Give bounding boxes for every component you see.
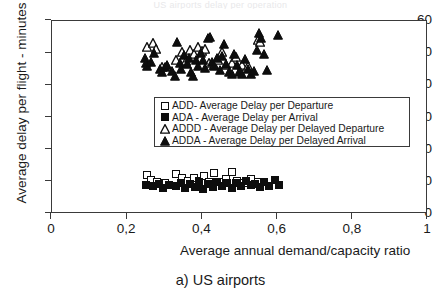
x-tick-mark bbox=[201, 213, 202, 219]
x-tick-mark bbox=[351, 213, 352, 219]
data-point-square-open bbox=[228, 168, 236, 176]
data-point-triangle-filled bbox=[229, 49, 239, 59]
data-point-triangle-filled bbox=[273, 30, 283, 40]
legend-item: ADDA - Average Delay per Delayed Arrival bbox=[160, 135, 409, 147]
x-tick-mark bbox=[50, 213, 51, 219]
x-tick-label: 0 bbox=[26, 222, 76, 236]
x-tick-mark bbox=[126, 213, 127, 219]
x-tick-label: 0,4 bbox=[176, 222, 226, 236]
x-tick-label: 1 bbox=[402, 222, 441, 236]
legend-item: ADD- Average Delay per Departure bbox=[160, 100, 409, 112]
legend: ADD- Average Delay per DepartureADA - Av… bbox=[154, 97, 410, 147]
data-point-triangle-filled bbox=[259, 49, 269, 59]
data-point-square-filled bbox=[275, 181, 283, 189]
data-point-triangle-filled bbox=[240, 54, 250, 64]
legend-label: ADDA - Average Delay per Delayed Arrival bbox=[172, 135, 366, 146]
data-point-triangle-filled bbox=[172, 37, 182, 47]
legend-marker-square-filled-icon bbox=[160, 112, 170, 122]
clipped-title-remnant: US airports delay per operation bbox=[0, 0, 441, 9]
x-tick-label: 0,6 bbox=[252, 222, 302, 236]
x-tick-label: 0,2 bbox=[101, 222, 151, 236]
figure-caption: a) US airports bbox=[0, 272, 441, 288]
data-point-triangle-filled bbox=[262, 65, 272, 75]
x-axis-title: Average annual demand/capacity ratio bbox=[180, 243, 430, 258]
x-tick-label: 0,8 bbox=[327, 222, 377, 236]
legend-marker-square-open-icon bbox=[160, 101, 170, 111]
legend-marker-triangle-open-icon bbox=[160, 124, 170, 134]
legend-label: ADDD - Average Delay per Delayed Departu… bbox=[172, 123, 384, 134]
data-point-triangle-filled bbox=[219, 39, 229, 49]
data-point-triangle-filled bbox=[256, 33, 266, 43]
legend-item: ADA - Average Delay per Arrival bbox=[160, 112, 409, 124]
legend-marker-triangle-filled-icon bbox=[160, 136, 170, 146]
legend-label: ADA - Average Delay per Arrival bbox=[172, 112, 318, 123]
x-tick-mark bbox=[426, 213, 427, 219]
data-point-square-open bbox=[210, 169, 218, 177]
data-point-triangle-filled bbox=[188, 71, 198, 81]
scatter-plot-figure: US airports delay per operation 01020304… bbox=[0, 0, 441, 298]
data-point-triangle-filled bbox=[205, 32, 215, 42]
legend-label: ADD- Average Delay per Departure bbox=[172, 100, 333, 111]
data-point-triangle-filled bbox=[149, 48, 159, 58]
y-axis-title: Average delay per flight - minutes bbox=[15, 0, 29, 208]
legend-item: ADDD - Average Delay per Delayed Departu… bbox=[160, 123, 409, 135]
data-point-triangle-filled bbox=[249, 66, 259, 76]
x-tick-mark bbox=[276, 213, 277, 219]
